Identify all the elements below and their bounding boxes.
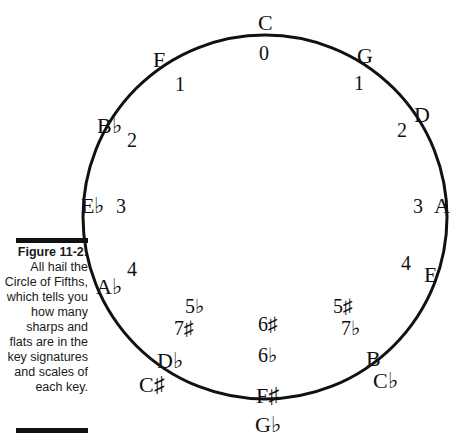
- key-eflat-label: E♭: [81, 193, 104, 218]
- key-bflat-count: 2: [127, 129, 137, 151]
- key-d-count: 2: [397, 119, 407, 141]
- key-a-count: 3: [413, 195, 423, 217]
- key-fsharp-label: F♯: [256, 383, 279, 408]
- key-csharp-label: C♯: [139, 372, 165, 397]
- key-dflat-label: D♭: [157, 348, 183, 373]
- key-c-count: 0: [259, 42, 269, 64]
- key-aflat-label: A♭: [96, 274, 122, 299]
- circle-of-fifths-diagram: C 0 G 1 D 2 A 3 E 4 B C♭ 5♯ 7♭ 6♯ 6♭ F♯ …: [0, 0, 461, 446]
- key-fsharp-sharps-count: 6♯: [258, 313, 278, 335]
- key-g-count: 1: [354, 72, 364, 94]
- key-aflat-count: 4: [127, 258, 137, 280]
- key-eflat-count: 3: [116, 195, 126, 217]
- key-c-label: C: [258, 10, 273, 35]
- key-bflat-label: B♭: [97, 113, 122, 138]
- key-f-label: F: [153, 47, 165, 72]
- key-d-label: D: [414, 102, 430, 127]
- key-f-count: 1: [175, 73, 185, 95]
- key-e-count: 4: [401, 252, 411, 274]
- key-dflat-flats-count: 5♭: [185, 295, 204, 317]
- key-gflat-label: G♭: [255, 412, 281, 437]
- key-a-label: A: [434, 193, 450, 218]
- key-cflat-flats-count: 7♭: [341, 317, 360, 339]
- key-b-sharps-count: 5♯: [333, 295, 353, 317]
- key-cflat-label: C♭: [373, 368, 398, 393]
- key-e-label: E: [424, 262, 437, 287]
- key-gflat-flats-count: 6♭: [258, 344, 277, 366]
- key-csharp-sharps-count: 7♯: [174, 317, 194, 339]
- key-g-label: G: [357, 43, 373, 68]
